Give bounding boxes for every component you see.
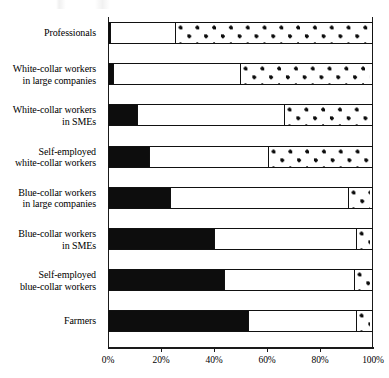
bar-segment-dotted bbox=[175, 23, 370, 43]
x-axis-tick bbox=[320, 347, 321, 352]
bar-segment-dotted bbox=[268, 147, 370, 167]
bar-row: Professionals bbox=[0, 22, 378, 44]
bar-segment-solid-white bbox=[137, 105, 287, 125]
stacked-bar bbox=[108, 228, 373, 250]
x-axis-tick bbox=[214, 347, 215, 352]
x-axis-tick bbox=[267, 347, 268, 352]
bar-segment-solid-white bbox=[170, 188, 350, 208]
stacked-bar bbox=[108, 269, 373, 291]
bar-segment-solid-black bbox=[109, 311, 249, 331]
bar-row: White-collar workers in large companies bbox=[0, 63, 378, 85]
bar-row: White-collar workers in SMEs bbox=[0, 104, 378, 126]
bar-row-label: Professionals bbox=[0, 27, 96, 39]
bar-segment-solid-black bbox=[109, 147, 150, 167]
bar-segment-solid-white bbox=[248, 311, 358, 331]
cropped-text-artifact bbox=[56, 0, 110, 9]
bar-row-label: Self-employed blue-collar workers bbox=[0, 269, 96, 292]
bar-segment-solid-white bbox=[110, 23, 178, 43]
x-axis-tick bbox=[161, 347, 162, 352]
bar-segment-solid-white bbox=[113, 64, 243, 84]
bar-row: Self-employed white-collar workers bbox=[0, 146, 378, 168]
bar-row-label: White-collar workers in SMEs bbox=[0, 104, 96, 127]
x-axis-tick-label: 80% bbox=[300, 355, 340, 365]
stacked-bar bbox=[108, 310, 373, 332]
bar-segment-solid-black bbox=[109, 188, 171, 208]
x-axis-tick-label: 60% bbox=[247, 355, 287, 365]
bar-segment-dotted bbox=[356, 229, 371, 249]
bar-segment-solid-white bbox=[149, 147, 271, 167]
stacked-bar bbox=[108, 22, 373, 44]
bar-segment-solid-white bbox=[214, 229, 358, 249]
bar-row: Farmers bbox=[0, 310, 378, 332]
x-axis-tick-label: 40% bbox=[194, 355, 234, 365]
bar-segment-dotted bbox=[240, 64, 370, 84]
bar-row: Blue-collar workers in SMEs bbox=[0, 228, 378, 250]
bar-segment-solid-black bbox=[109, 229, 215, 249]
bar-segment-dotted bbox=[354, 270, 370, 290]
bar-row-label: Blue-collar workers in large companies bbox=[0, 186, 96, 209]
bar-row: Self-employed blue-collar workers bbox=[0, 269, 378, 291]
bar-segment-dotted bbox=[284, 105, 370, 125]
x-axis-tick-label: 0% bbox=[88, 355, 128, 365]
x-axis-line bbox=[108, 347, 374, 349]
stacked-bar bbox=[108, 104, 373, 126]
bar-segment-solid-white bbox=[224, 270, 357, 290]
bar-segment-solid-black bbox=[109, 270, 226, 290]
bar-segment-dotted bbox=[348, 188, 371, 208]
stacked-bar bbox=[108, 187, 373, 209]
bar-row-label: Farmers bbox=[0, 316, 96, 328]
stacked-bar bbox=[108, 63, 373, 85]
bar-segment-dotted bbox=[356, 311, 371, 331]
stacked-bar bbox=[108, 146, 373, 168]
bar-segment-solid-black bbox=[109, 105, 138, 125]
bar-row: Blue-collar workers in large companies bbox=[0, 187, 378, 209]
bar-row-label: Blue-collar workers in SMEs bbox=[0, 228, 96, 251]
x-axis-tick-label: 100% bbox=[353, 355, 389, 365]
bar-row-label: Self-employed white-collar workers bbox=[0, 145, 96, 168]
x-axis-tick-label: 20% bbox=[141, 355, 181, 365]
bar-row-label: White-collar workers in large companies bbox=[0, 63, 96, 86]
